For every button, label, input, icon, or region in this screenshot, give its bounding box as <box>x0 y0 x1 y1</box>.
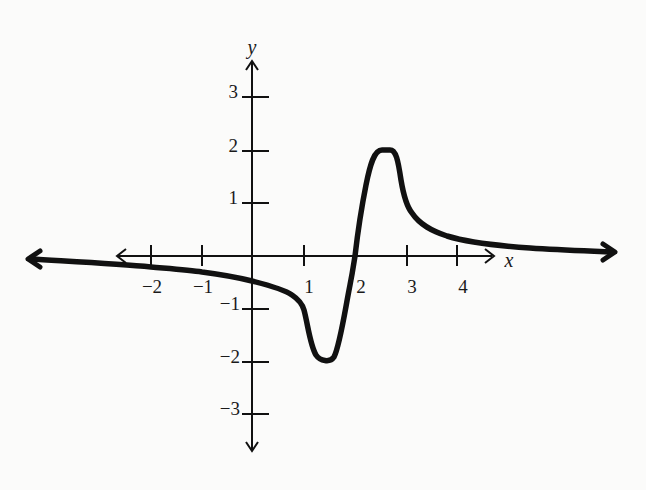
y-tick-label: 2 <box>229 135 239 156</box>
x-tick-label: 4 <box>458 276 468 297</box>
x-axis <box>117 249 494 263</box>
x-axis-label: x <box>504 249 514 271</box>
y-tick-label: −2 <box>220 346 240 367</box>
x-tick-label: −2 <box>142 276 162 297</box>
y-axis-label: y <box>246 36 257 59</box>
x-tick-label: 2 <box>356 276 366 297</box>
y-tick-labels: 3 2 1 −1 −2 −3 <box>220 81 240 419</box>
y-tick-label: −1 <box>220 293 240 314</box>
x-tick-labels: −2 −1 1 2 3 4 <box>142 276 468 297</box>
x-tick-label: −1 <box>193 276 213 297</box>
y-tick-label: −3 <box>220 398 240 419</box>
x-tick-label: 3 <box>407 276 417 297</box>
y-tick-label: 3 <box>229 81 239 102</box>
x-tick-label: 1 <box>304 276 314 297</box>
function-graph: −2 −1 1 2 3 4 3 2 1 −1 −2 −3 y x <box>0 0 646 490</box>
y-tick-label: 1 <box>229 187 239 208</box>
chart-canvas: −2 −1 1 2 3 4 3 2 1 −1 −2 −3 y x <box>0 0 646 490</box>
